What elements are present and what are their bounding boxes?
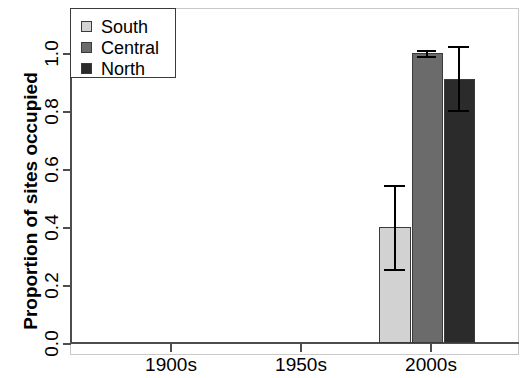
y-axis-title: Proportion of sites occupied [20,51,42,351]
legend-item-south: South [81,16,148,37]
y-axis-line [70,53,72,344]
bar-north-2000s [444,79,475,343]
legend-label-south: South [101,18,148,36]
error-bar-cap-lower-north-2000s [448,110,469,112]
error-bar-line-south-2000s [394,186,396,270]
y-tick-label-0.8: 0.8 [28,102,64,121]
x-tick-mark-1950s [300,344,302,352]
y-tick-label-0.2: 0.2 [28,276,64,295]
legend: South Central North [70,8,176,78]
x-tick-label-1950s: 1950s [251,354,351,376]
x-tick-label-1900s: 1900s [121,354,221,376]
legend-label-north: North [101,60,145,78]
x-tick-label-2000s: 2000s [381,354,481,376]
legend-swatch-central [81,42,92,53]
y-tick-label-0.6: 0.6 [28,160,64,179]
legend-swatch-north [81,63,92,74]
legend-swatch-south [81,21,92,32]
x-tick-mark-1900s [170,344,172,352]
y-tick-label-0.4: 0.4 [28,218,64,237]
legend-label-central: Central [101,39,159,57]
error-bar-cap-upper-south-2000s [384,185,405,187]
x-tick-mark-2000s [430,344,432,352]
bar-central-2000s [412,53,443,343]
y-tick-label-1.0: 1.0 [28,44,64,63]
y-tick-label-0.0: 0.0 [28,334,64,353]
legend-item-north: North [81,58,145,79]
error-bar-line-north-2000s [458,47,460,111]
legend-item-central: Central [81,37,159,58]
error-bar-cap-lower-central-2000s [417,56,436,58]
error-bar-cap-upper-north-2000s [448,46,469,48]
bar-chart-figure: Proportion of sites occupied 1.0 0.8 0.6… [0,0,527,378]
error-bar-cap-upper-central-2000s [417,50,436,52]
error-bar-cap-lower-south-2000s [384,269,405,271]
